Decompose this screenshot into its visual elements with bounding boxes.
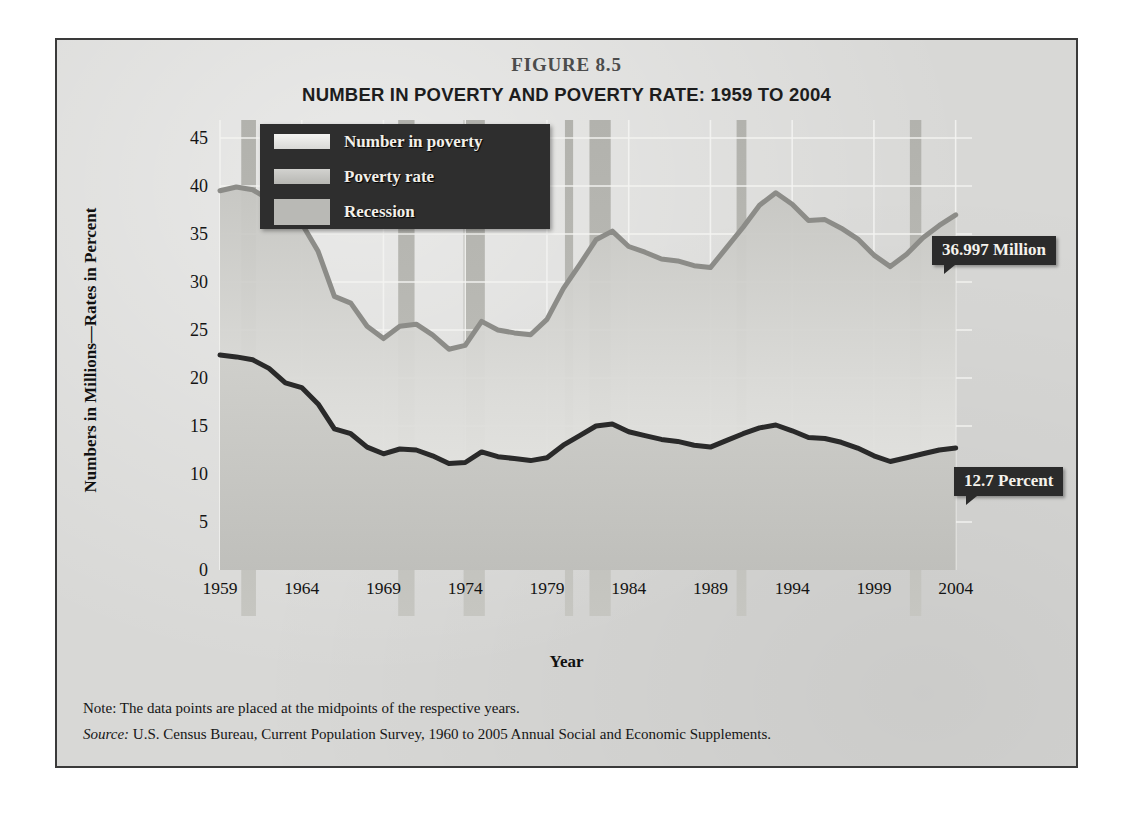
y-tick-label: 40 xyxy=(162,177,208,195)
figure-title: NUMBER IN POVERTY AND POVERTY RATE: 1959… xyxy=(57,84,1076,106)
legend-item-number-in-poverty: Number in poverty xyxy=(260,124,550,159)
note-label: Note: xyxy=(83,700,116,716)
x-tick-label: 1999 xyxy=(839,578,909,599)
chart-legend: Number in poverty Poverty rate Recession xyxy=(260,124,550,229)
figure-source: Source: U.S. Census Bureau, Current Popu… xyxy=(83,726,771,743)
x-tick-label: 1974 xyxy=(430,578,500,599)
callout-number-in-poverty: 36.997 Million xyxy=(932,236,1056,265)
y-tick-label: 15 xyxy=(162,417,208,435)
x-tick-label: 1979 xyxy=(512,578,582,599)
recession-swatch-icon xyxy=(274,199,330,225)
x-tick-label: 1959 xyxy=(185,578,255,599)
y-tick-label: 30 xyxy=(162,273,208,291)
callout-poverty-rate: 12.7 Percent xyxy=(954,467,1063,496)
x-tick-label: 2004 xyxy=(921,578,991,599)
y-tick-label: 25 xyxy=(162,321,208,339)
series-areas xyxy=(220,187,956,570)
y-tick-label: 5 xyxy=(162,513,208,531)
figure-number: FIGURE 8.5 xyxy=(57,54,1076,76)
note-text: The data points are placed at the midpoi… xyxy=(116,700,519,716)
legend-item-recession: Recession xyxy=(260,194,550,229)
figure-frame: FIGURE 8.5 NUMBER IN POVERTY AND POVERTY… xyxy=(55,38,1078,768)
x-tick-label: 1994 xyxy=(757,578,827,599)
plot-area: 051015202530354045 195919641969197419791… xyxy=(110,120,1000,620)
chart-canvas xyxy=(110,120,1000,620)
y-axis-title: Numbers in Millions—Rates in Percent xyxy=(81,140,101,560)
x-tick-label: 1984 xyxy=(594,578,664,599)
y-tick-label: 20 xyxy=(162,369,208,387)
legend-label: Recession xyxy=(344,202,415,222)
y-tick-label: 0 xyxy=(162,561,208,579)
x-tick-label: 1969 xyxy=(348,578,418,599)
source-text: U.S. Census Bureau, Current Population S… xyxy=(129,726,771,742)
poverty-rate-swatch-icon xyxy=(274,169,330,184)
source-label: Source: xyxy=(83,726,129,742)
legend-item-poverty-rate: Poverty rate xyxy=(260,159,550,194)
y-tick-label: 45 xyxy=(162,129,208,147)
figure-page: FIGURE 8.5 NUMBER IN POVERTY AND POVERTY… xyxy=(0,0,1131,818)
x-axis-title: Year xyxy=(57,652,1076,672)
legend-label: Number in poverty xyxy=(344,132,483,152)
number-in-poverty-swatch-icon xyxy=(274,134,330,149)
legend-label: Poverty rate xyxy=(344,167,434,187)
x-tick-label: 1989 xyxy=(675,578,745,599)
x-tick-label: 1964 xyxy=(267,578,337,599)
y-tick-label: 35 xyxy=(162,225,208,243)
y-tick-label: 10 xyxy=(162,465,208,483)
figure-note: Note: The data points are placed at the … xyxy=(83,700,520,717)
